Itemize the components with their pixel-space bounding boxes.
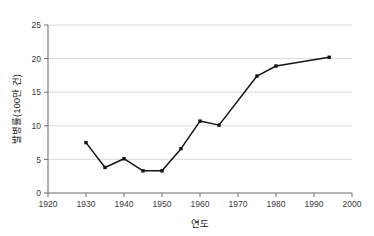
data-point [198,119,201,122]
data-point [122,157,125,160]
x-axis-title: 연도 [191,218,209,229]
marker-group [84,56,331,173]
x-tick-group: 192019301940195019601970198019902000 [39,193,362,209]
data-point [217,123,220,126]
x-tick-label: 1940 [115,199,134,209]
data-point [274,64,277,67]
x-tick-label: 1920 [39,199,58,209]
y-tick-label: 0 [36,188,41,198]
data-point [179,147,182,150]
data-point [141,169,144,172]
x-tick-label: 1990 [305,199,324,209]
series-group [86,57,329,171]
data-point [255,74,258,77]
axes-group [48,25,352,193]
y-axis-title: 발병률(100만 건) [11,74,22,144]
x-tick-label: 1960 [191,199,210,209]
data-point [160,169,163,172]
data-point [328,56,331,59]
x-tick-label: 1970 [229,199,248,209]
y-tick-label: 15 [32,87,42,97]
gridlines-group [48,25,352,159]
chart-svg: 192019301940195019601970198019902000 051… [0,0,374,236]
y-tick-label: 20 [32,54,42,64]
y-tick-group: 0510152025 [32,20,48,198]
chart-canvas: 192019301940195019601970198019902000 051… [0,0,374,236]
series-line-발병률 [86,57,329,171]
y-tick-label: 10 [32,121,42,131]
x-tick-label: 1980 [267,199,286,209]
x-tick-label: 2000 [343,199,362,209]
x-tick-label: 1950 [153,199,172,209]
x-tick-label: 1930 [77,199,96,209]
line-chart: 192019301940195019601970198019902000 051… [0,0,374,236]
data-point [103,166,106,169]
y-tick-label: 5 [36,155,41,165]
y-tick-label: 25 [32,20,42,30]
data-point [84,141,87,144]
